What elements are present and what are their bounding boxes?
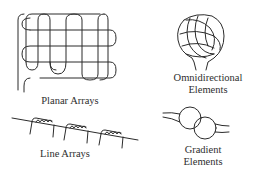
planar-arrays-label: Planar Arrays bbox=[30, 95, 110, 107]
gradient-label-line2: Elements bbox=[168, 156, 238, 168]
omnidirectional-element-icon bbox=[178, 15, 224, 70]
gradient-elements-label: Gradient Elements bbox=[168, 144, 238, 168]
omnidirectional-label-line1: Omnidirectional bbox=[158, 72, 258, 84]
omnidirectional-elements-label: Omnidirectional Elements bbox=[158, 72, 258, 96]
gradient-element-icon bbox=[163, 107, 229, 139]
planar-array-icon bbox=[18, 14, 116, 92]
omnidirectional-label-line2: Elements bbox=[158, 84, 258, 96]
line-array-icon bbox=[12, 118, 138, 148]
gradient-label-line1: Gradient bbox=[168, 144, 238, 156]
line-arrays-label: Line Arrays bbox=[30, 148, 100, 160]
